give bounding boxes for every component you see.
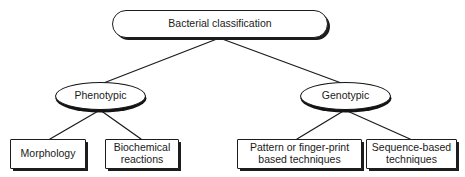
node-biochemical-reactions-label: Biochemical reactions bbox=[114, 142, 171, 166]
edge-root-to-phenotypic bbox=[101, 38, 220, 84]
node-bacterial-classification[interactable]: Bacterial classification bbox=[112, 10, 328, 38]
node-bacterial-classification-label: Bacterial classification bbox=[168, 18, 271, 30]
edge-genotypic-to-pattern bbox=[297, 110, 345, 139]
node-biochemical-reactions[interactable]: Biochemical reactions bbox=[105, 139, 179, 169]
edge-genotypic-to-sequence bbox=[345, 110, 410, 139]
node-sequence-techniques[interactable]: Sequence-based techniques bbox=[366, 139, 457, 169]
node-phenotypic-label: Phenotypic bbox=[75, 90, 127, 102]
edge-root-to-genotypic bbox=[220, 38, 345, 84]
node-genotypic-label: Genotypic bbox=[322, 90, 369, 102]
node-phenotypic[interactable]: Phenotypic bbox=[55, 82, 146, 110]
bacterial-classification-diagram: Bacterial classification Phenotypic Geno… bbox=[0, 0, 465, 177]
edge-phenotypic-to-biochemical bbox=[100, 110, 141, 139]
node-morphology[interactable]: Morphology bbox=[10, 139, 86, 169]
node-sequence-techniques-label: Sequence-based techniques bbox=[372, 142, 451, 166]
node-pattern-techniques-label: Pattern or finger-print based techniques bbox=[250, 142, 349, 166]
node-genotypic[interactable]: Genotypic bbox=[300, 82, 391, 110]
node-pattern-techniques[interactable]: Pattern or finger-print based techniques bbox=[237, 139, 362, 169]
node-morphology-label: Morphology bbox=[21, 148, 76, 160]
edge-phenotypic-to-morphology bbox=[50, 110, 100, 139]
